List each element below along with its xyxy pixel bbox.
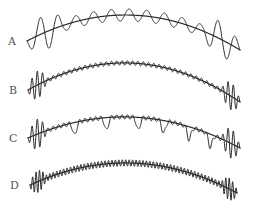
trace-d	[30, 160, 237, 200]
trace-a	[27, 9, 240, 59]
trace-c	[28, 115, 240, 158]
trace-a-label: A	[8, 36, 16, 47]
waveform-figure: A B C D	[0, 0, 253, 217]
trace-c-oscillation	[28, 115, 240, 158]
trace-b-oscillation	[28, 61, 240, 110]
trace-b	[28, 61, 240, 110]
trace-d-label: D	[10, 180, 19, 191]
trace-c-label: C	[9, 133, 17, 144]
trace-a-oscillation	[27, 9, 240, 59]
trace-b-label: B	[9, 85, 17, 96]
trace-d-oscillation	[30, 160, 237, 200]
waveform-plot	[0, 0, 253, 217]
